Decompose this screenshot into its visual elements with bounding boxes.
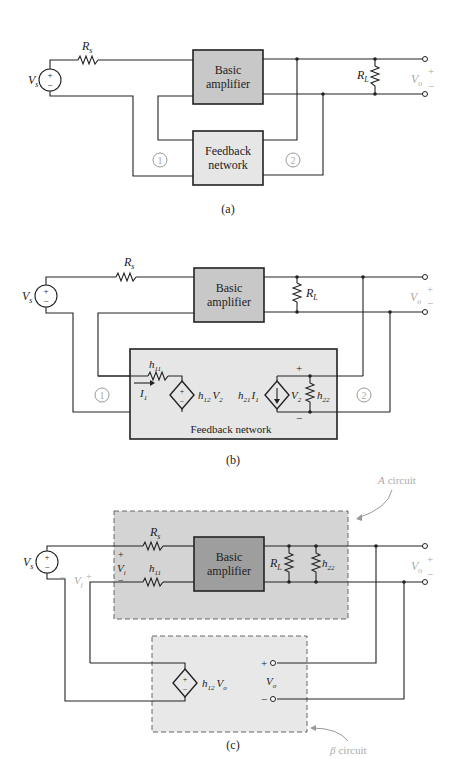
source-plus: + bbox=[43, 286, 48, 296]
dvs-plus: + bbox=[183, 675, 188, 684]
fb-label-1: Feedback bbox=[205, 144, 251, 158]
beta-vo-minus: − bbox=[261, 693, 267, 705]
resistor-rl-icon bbox=[371, 59, 379, 94]
dvs-minus: − bbox=[183, 685, 188, 694]
beta-terminal-minus bbox=[271, 697, 276, 702]
caption-b: (b) bbox=[226, 453, 240, 467]
vf-plus: + bbox=[86, 571, 92, 582]
label-vs: Vs bbox=[28, 73, 38, 89]
vo-minus: − bbox=[427, 297, 433, 309]
resistor-rl-icon bbox=[293, 277, 301, 312]
caption-c: (c) bbox=[226, 738, 239, 752]
vo-minus: − bbox=[428, 80, 434, 92]
beta-vo-plus: + bbox=[261, 657, 267, 669]
source-minus: − bbox=[47, 80, 52, 90]
port-2-label: 2 bbox=[291, 155, 296, 166]
output-terminal-plus bbox=[423, 275, 428, 280]
caption-a: (a) bbox=[221, 202, 234, 216]
source-minus: − bbox=[44, 562, 49, 572]
fb-network-label: Feedback network bbox=[191, 423, 272, 435]
amp-label-2: amplifier bbox=[206, 77, 250, 91]
output-terminal-minus bbox=[423, 310, 428, 315]
a-circuit-label: Acircuit bbox=[377, 474, 416, 486]
port-1-label: 1 bbox=[100, 390, 105, 401]
label-rs: Rs bbox=[123, 255, 134, 271]
beta-circuit-label: βcircuit bbox=[329, 744, 367, 756]
output-terminal-plus bbox=[423, 57, 428, 62]
label-rl: RL bbox=[305, 286, 318, 302]
amp-label-1: Basic bbox=[216, 550, 243, 564]
port-2-label: 2 bbox=[362, 390, 367, 401]
vi-plus: + bbox=[118, 549, 124, 560]
panel-c: Acircuit βcircuit + − Vs − Vf + + Vi − R… bbox=[23, 474, 433, 756]
v2-minus: − bbox=[296, 412, 302, 424]
label-vo: Vo bbox=[411, 72, 422, 88]
output-terminal-plus bbox=[423, 544, 428, 549]
panel-b: + − Vs Rs Basic amplifier RL Vo + − h11 bbox=[22, 255, 433, 467]
amp-label-2: amplifier bbox=[207, 564, 251, 578]
source-plus: + bbox=[44, 552, 49, 562]
vo-plus: + bbox=[427, 553, 433, 565]
source-minus: − bbox=[43, 296, 48, 306]
beta-terminal-plus bbox=[271, 661, 276, 666]
resistor-rs-icon bbox=[116, 273, 136, 281]
dvs-minus: − bbox=[180, 397, 185, 406]
v2-plus: + bbox=[296, 362, 302, 374]
label-vf: Vf bbox=[74, 574, 84, 589]
label-rl: RL bbox=[356, 68, 369, 84]
vi-minus: − bbox=[118, 575, 124, 586]
vo-plus: + bbox=[428, 65, 434, 77]
output-terminal-minus bbox=[423, 580, 428, 585]
amp-label-2: amplifier bbox=[207, 295, 251, 309]
dvs-plus: + bbox=[180, 387, 185, 396]
label-vs: Vs bbox=[23, 555, 33, 571]
output-terminal-minus bbox=[423, 92, 428, 97]
vo-plus: + bbox=[427, 283, 433, 295]
resistor-rs-icon bbox=[78, 56, 98, 64]
a-circuit-pointer-arrow bbox=[358, 490, 392, 518]
label-rs: Rs bbox=[81, 39, 92, 55]
vf-minus: − bbox=[60, 572, 66, 583]
port-1-label: 1 bbox=[158, 155, 163, 166]
beta-circuit-pointer-arrow bbox=[312, 728, 348, 741]
amp-label-1: Basic bbox=[215, 63, 242, 77]
label-vo: Vo bbox=[411, 559, 422, 575]
fb-label-2: network bbox=[208, 158, 247, 172]
vo-minus: − bbox=[427, 568, 433, 580]
source-plus: + bbox=[47, 70, 52, 80]
amp-label-1: Basic bbox=[216, 281, 243, 295]
label-vs: Vs bbox=[22, 289, 32, 305]
panel-a: + − Vs Rs Basic amplifier Feedback netwo… bbox=[28, 39, 434, 216]
label-vo: Vo bbox=[410, 290, 421, 306]
feedback-amplifier-diagram: + − Vs Rs Basic amplifier Feedback netwo… bbox=[0, 0, 453, 759]
